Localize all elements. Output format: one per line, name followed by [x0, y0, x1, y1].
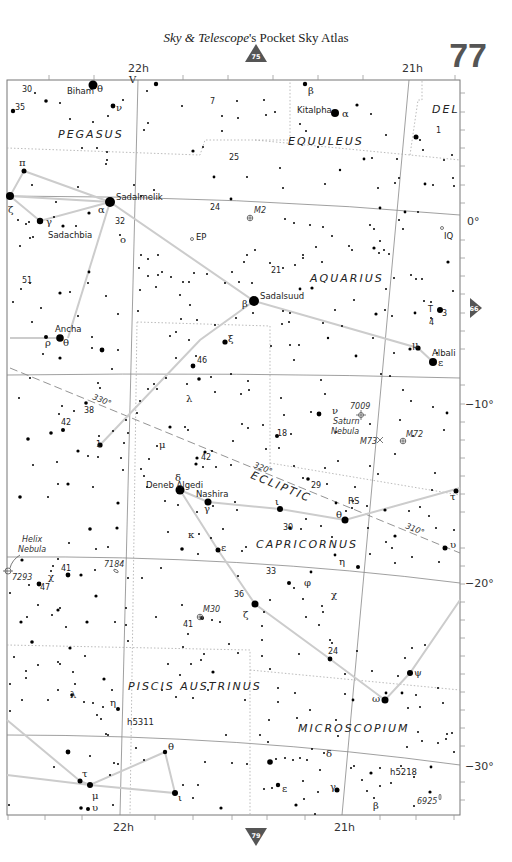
svg-text:γ: γ — [204, 503, 210, 514]
svg-text:Nebula: Nebula — [18, 545, 46, 554]
svg-text:τ: τ — [82, 768, 88, 779]
svg-text:Biham: Biham — [67, 86, 94, 96]
svg-text:−10°: −10° — [465, 398, 494, 411]
svg-text:θ: θ — [336, 509, 342, 520]
svg-text:−20°: −20° — [465, 577, 494, 590]
svg-text:V: V — [128, 74, 137, 85]
star-name-nashira: Nashira — [196, 489, 228, 499]
svg-text:4: 4 — [429, 318, 434, 327]
svg-text:μ: μ — [92, 790, 99, 801]
ecliptic-line: 330° 320° 310° ECLIPTIC — [10, 368, 460, 553]
svg-text:π: π — [19, 157, 26, 168]
svg-text:β: β — [308, 85, 314, 96]
svg-text:AQUARIUS: AQUARIUS — [309, 272, 384, 285]
axis-labels: 22h 21h 22h 21h 0° −10° −20° −30° — [113, 62, 494, 834]
svg-text:τ: τ — [450, 491, 456, 502]
svg-text:PEGASUS: PEGASUS — [58, 128, 124, 141]
svg-text:51: 51 — [22, 276, 32, 285]
svg-text:T: T — [427, 305, 433, 314]
dso-labels: M2 EP IQ 7009 Saturn Nebula M73 M72 Heli… — [12, 206, 454, 806]
svg-text:ECLIPTIC: ECLIPTIC — [249, 469, 313, 505]
svg-text:Saturn: Saturn — [333, 417, 360, 426]
svg-text:Albali: Albali — [432, 348, 456, 358]
svg-text:36: 36 — [234, 590, 244, 599]
svg-text:Sadalmelik: Sadalmelik — [116, 192, 163, 202]
svg-text:24: 24 — [210, 203, 220, 212]
svg-text:42: 42 — [201, 453, 211, 462]
svg-text:δ: δ — [326, 748, 332, 759]
deep-sky-objects — [3, 215, 444, 800]
svg-text:μ: μ — [159, 439, 166, 450]
svg-text:EQUULEUS: EQUULEUS — [288, 135, 364, 148]
nav-up-page-75[interactable]: 75 — [245, 44, 267, 62]
svg-text:ν: ν — [116, 102, 122, 113]
star-chart: 75 66 79 — [0, 0, 512, 862]
bright-stars — [6, 81, 459, 812]
svg-text:ε: ε — [282, 783, 287, 794]
nav-down-page-79[interactable]: 79 — [245, 828, 267, 846]
svg-text:79: 79 — [251, 832, 261, 840]
svg-text:35: 35 — [15, 103, 25, 112]
svg-text:47: 47 — [40, 583, 50, 592]
svg-text:7293: 7293 — [12, 573, 32, 582]
ra-ticks — [8, 75, 455, 820]
svg-text:ζ: ζ — [243, 609, 249, 620]
svg-text:32: 32 — [115, 217, 125, 226]
svg-text:30: 30 — [283, 523, 293, 532]
svg-text:CAPRICORNUS: CAPRICORNUS — [256, 538, 358, 551]
svg-text:24: 24 — [328, 647, 338, 656]
svg-text:θ: θ — [97, 83, 103, 94]
svg-text:21h: 21h — [402, 62, 423, 75]
svg-text:M72: M72 — [406, 430, 423, 439]
svg-text:IQ: IQ — [444, 231, 454, 241]
svg-text:25: 25 — [229, 153, 239, 162]
svg-text:75: 75 — [251, 53, 261, 61]
svg-text:M30: M30 — [203, 605, 220, 614]
svg-text:γ: γ — [46, 216, 52, 227]
star-designations: θν βα πζ γα οβ ξρ θμ ελ μδ γι θν κε ηφ χ… — [8, 74, 456, 813]
svg-text:β: β — [242, 298, 248, 309]
svg-text:MICROSCOPIUM: MICROSCOPIUM — [298, 722, 409, 735]
svg-text:7184: 7184 — [104, 560, 124, 569]
svg-text:PISCIS AUSTRINUS: PISCIS AUSTRINUS — [128, 680, 262, 693]
svg-text:0°: 0° — [467, 215, 480, 228]
svg-text:φ: φ — [304, 577, 311, 588]
svg-text:ε: ε — [438, 357, 443, 368]
svg-text:δ: δ — [175, 472, 181, 483]
svg-text:ω: ω — [372, 693, 380, 704]
svg-text:6925: 6925 — [417, 797, 437, 806]
svg-text:ο: ο — [120, 234, 126, 245]
svg-text:α: α — [98, 204, 105, 215]
svg-text:θ: θ — [168, 741, 174, 752]
svg-text:ψ: ψ — [414, 667, 422, 678]
svg-text:ρ: ρ — [45, 337, 51, 348]
svg-text:Kitalpha: Kitalpha — [297, 105, 332, 115]
svg-text:29: 29 — [311, 481, 321, 490]
nav-right-page-66[interactable]: 66 — [469, 298, 482, 318]
svg-text:Ancha: Ancha — [55, 324, 81, 334]
svg-text:κ: κ — [188, 529, 195, 540]
svg-text:33: 33 — [266, 567, 276, 576]
svg-text:−30°: −30° — [465, 760, 494, 773]
svg-text:M2: M2 — [254, 206, 266, 215]
svg-text:46: 46 — [197, 356, 207, 365]
svg-text:h5311: h5311 — [127, 717, 154, 727]
svg-text:ι: ι — [275, 496, 279, 507]
svg-text:38: 38 — [84, 406, 94, 415]
svg-text:22h: 22h — [113, 821, 134, 834]
svg-text:30: 30 — [22, 85, 32, 94]
svg-text:7009: 7009 — [350, 402, 370, 411]
svg-text:χ: χ — [48, 571, 54, 582]
svg-text:18: 18 — [277, 429, 287, 438]
svg-text:λ: λ — [186, 393, 193, 404]
svg-text:μ: μ — [412, 339, 419, 350]
svg-text:α: α — [342, 108, 349, 119]
svg-text:EP: EP — [196, 232, 207, 242]
svg-text:21: 21 — [271, 266, 281, 275]
svg-text:Nebula: Nebula — [331, 427, 359, 436]
svg-text:RS: RS — [348, 496, 359, 506]
svg-text:22h: 22h — [128, 62, 149, 75]
svg-text:66: 66 — [469, 305, 479, 313]
svg-text:41: 41 — [183, 620, 193, 629]
svg-text:ι: ι — [178, 792, 182, 803]
